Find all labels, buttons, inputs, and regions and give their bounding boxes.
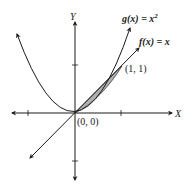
point-label-1-1: (1, 1) bbox=[125, 63, 147, 75]
f-label: f(x) = x bbox=[139, 36, 170, 48]
point-label-origin: (0, 0) bbox=[77, 116, 99, 128]
x-axis-label: X bbox=[174, 108, 182, 119]
g-label: g(x) = x2 bbox=[121, 12, 158, 25]
graph-canvas: Y X g(x) = x2 f(x) = x (1, 1) (0, 0) bbox=[0, 0, 193, 188]
curve-f-line bbox=[30, 48, 139, 158]
y-axis-label: Y bbox=[70, 11, 77, 22]
curve-g-parabola bbox=[17, 28, 130, 112]
